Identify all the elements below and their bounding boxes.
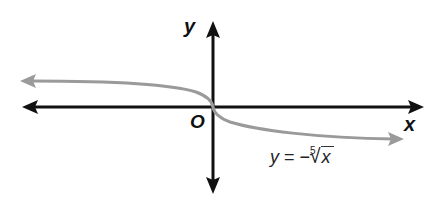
function-graph bbox=[0, 0, 441, 208]
equation-radicand: x bbox=[321, 146, 334, 167]
origin-label: O bbox=[190, 112, 205, 131]
equation-lhs: y bbox=[270, 147, 279, 167]
equation-label: y=−5√x bbox=[270, 146, 334, 166]
x-axis bbox=[22, 100, 424, 114]
y-axis-label: y bbox=[184, 16, 195, 36]
equation-equals: = bbox=[279, 147, 300, 167]
x-axis-label: x bbox=[404, 114, 415, 134]
radical-index: 5 bbox=[310, 145, 316, 156]
equation-sign: − bbox=[300, 147, 311, 167]
